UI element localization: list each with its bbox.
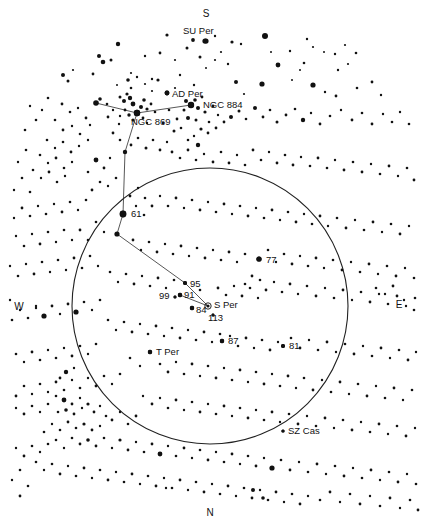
star-dot (151, 205, 154, 208)
star-dot (63, 347, 65, 349)
star-dot (151, 443, 154, 446)
star-dot (312, 389, 315, 392)
star-dot (215, 413, 218, 416)
star-label-81: 81 (289, 340, 300, 351)
star-dot (249, 287, 252, 290)
star-dot (152, 139, 155, 142)
star-dot (136, 76, 138, 78)
star-dot (55, 357, 58, 360)
star-dot (65, 269, 67, 271)
star-dot (404, 267, 406, 269)
star-dot (215, 211, 218, 214)
star-dot (62, 141, 65, 144)
star-dot (45, 213, 48, 216)
star-dot (63, 389, 66, 392)
star-dot (378, 423, 381, 426)
star-dot (325, 473, 327, 475)
star-dot (156, 251, 159, 254)
star-dot (168, 109, 171, 112)
star-dot (11, 319, 14, 322)
labeled-star-dot (190, 306, 194, 310)
star-dot (247, 417, 250, 420)
star-dot (287, 375, 290, 378)
star-dot (283, 501, 285, 503)
star-dot (64, 408, 68, 412)
star-dot (150, 103, 153, 106)
star-dot (269, 109, 272, 112)
star-dot (55, 381, 58, 384)
star-dot (73, 309, 78, 314)
star-dot (17, 161, 19, 163)
star-dot (253, 106, 257, 110)
star-dot (398, 349, 401, 352)
star-dot (324, 91, 326, 93)
star-dot (110, 59, 113, 62)
star-dot (371, 123, 374, 126)
star-dot (95, 445, 98, 448)
star-dot (369, 495, 371, 497)
star-dot (312, 46, 314, 48)
star-dot (171, 327, 174, 330)
star-dot (203, 153, 205, 155)
star-dot (139, 105, 143, 109)
star-dot (332, 259, 335, 262)
star-dot (180, 127, 183, 130)
labeled-star-dot (220, 339, 224, 343)
star-dot (115, 177, 118, 180)
star-dot (171, 487, 174, 490)
star-dot (129, 195, 132, 198)
star-dot (336, 217, 339, 220)
star-label-99: 99 (159, 290, 170, 301)
star-dot (19, 469, 22, 472)
star-dot (402, 399, 404, 401)
star-dot (159, 195, 161, 197)
star-dot (131, 102, 136, 107)
star-dot (123, 150, 127, 154)
star-dot (203, 491, 206, 494)
star-dot (93, 100, 99, 106)
star-dot (148, 241, 151, 244)
star-dot (334, 53, 336, 55)
star-dot (297, 293, 299, 295)
labeled-star-dot (178, 293, 182, 297)
star-dot (303, 213, 305, 215)
star-dot (79, 133, 82, 136)
star-dot (271, 373, 273, 375)
star-dot (223, 461, 226, 464)
star-dot (89, 124, 91, 126)
star-dot (79, 397, 81, 399)
star-dot (97, 54, 101, 58)
star-dot (251, 497, 254, 500)
star-dot (396, 425, 399, 428)
star-dot (64, 175, 66, 177)
star-dot (349, 493, 352, 496)
star-dot (47, 403, 50, 406)
star-dot (114, 231, 119, 236)
star-dot (231, 379, 234, 382)
star-dot (319, 215, 322, 218)
star-dot (71, 355, 74, 358)
star-dot (405, 435, 408, 438)
star-dot (39, 411, 41, 413)
star-dot (300, 156, 302, 158)
compass-label-w: W (14, 301, 24, 312)
compass-label-n: N (206, 507, 213, 518)
star-dot (165, 287, 167, 289)
star-dot (40, 177, 42, 179)
star-dot (334, 465, 337, 468)
star-dot (125, 92, 128, 95)
labeled-star-dot (183, 281, 187, 285)
star-dot (415, 351, 417, 353)
star-dot (144, 197, 147, 200)
star-dot (106, 103, 109, 106)
star-dot (85, 117, 88, 120)
star-dot (46, 139, 49, 142)
star-dot (329, 115, 332, 118)
star-dot (69, 111, 72, 114)
star-dot (343, 475, 346, 478)
star-dot (196, 143, 200, 147)
star-dot (139, 483, 141, 485)
star-dot (41, 313, 46, 318)
star-dot (299, 255, 301, 257)
star-dot (379, 505, 382, 508)
